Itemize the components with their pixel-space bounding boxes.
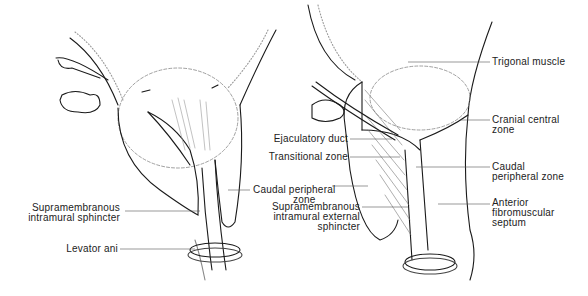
label-ejaculatory-duct: Ejaculatory duct [246, 134, 348, 144]
label-anterior-fibromuscular-septum: Anteriorfibromuscularseptum [492, 198, 555, 228]
label-line: intramural sphincter [28, 212, 120, 223]
label-transitional-zone: Transitional zone [246, 152, 348, 162]
label-line: peripheral zone [492, 171, 564, 182]
label-caudal-peripheral-zone-right: Caudalperipheral zone [492, 162, 564, 182]
label-supramembranous-intramural-sphincter: Supramembranousintramural sphincter [20, 203, 120, 223]
label-levator-ani: Levator ani [20, 244, 118, 254]
label-cranial-central-zone: Cranial centralzone [492, 115, 559, 135]
label-line: sphincter [318, 221, 360, 232]
label-trigonal-muscle: Trigonal muscle [492, 57, 565, 67]
prostate-anatomy-diagram: Caudal peripheralzone Supramembranousint… [0, 0, 588, 296]
label-supramembranous-intramural-external-sphincter: Supramembranousintramural externalsphinc… [250, 202, 360, 232]
label-line: zone [492, 124, 515, 135]
label-line: septum [492, 217, 526, 228]
